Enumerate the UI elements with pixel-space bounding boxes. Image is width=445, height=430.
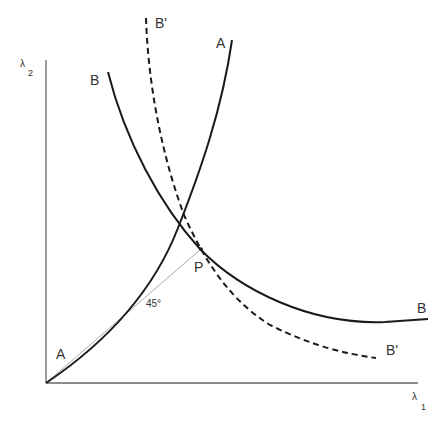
point-p-marker (199, 247, 203, 251)
x-axis-subscript: 1 (421, 402, 426, 412)
curve-b-prime (146, 18, 376, 358)
curve-a (46, 40, 232, 383)
x-axis-symbol: λ (412, 391, 417, 402)
label-b-prime-bottom: B' (386, 342, 398, 358)
label-a-top: A (216, 35, 226, 51)
y-axis-subscript: 2 (28, 68, 33, 78)
label-b-prime-top: B' (155, 15, 167, 31)
y-axis-symbol: λ (20, 58, 25, 69)
label-p: P (194, 259, 203, 275)
label-45-degrees: 45° (146, 298, 161, 309)
label-a-bottom: A (56, 346, 66, 362)
label-b-top: B (90, 72, 99, 88)
label-b-bottom: B (417, 300, 426, 316)
diagram-canvas: λ 2 λ 1 B' A B P 45° A B B' (0, 0, 445, 430)
